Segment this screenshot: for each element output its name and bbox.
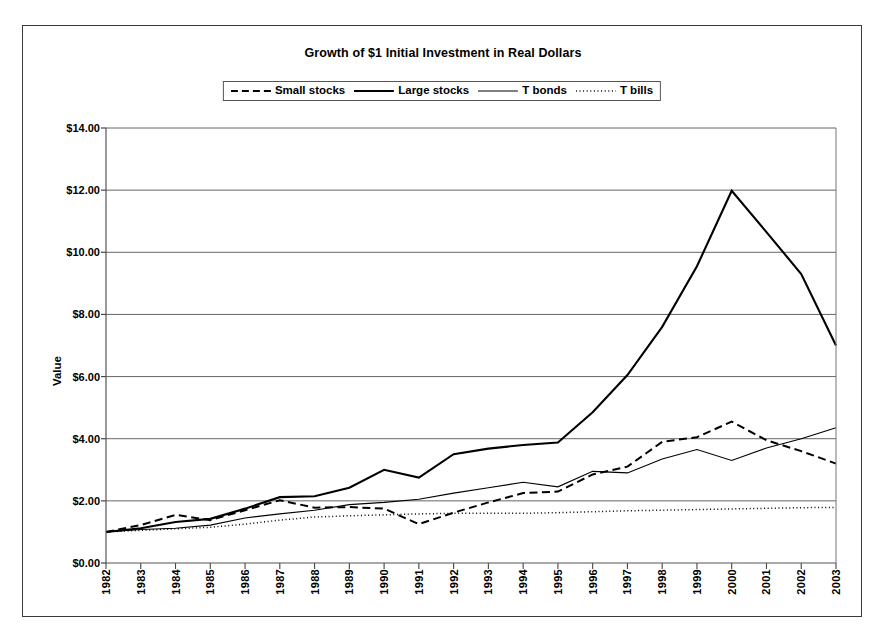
series-lines — [106, 191, 836, 532]
plot-svg — [106, 128, 836, 563]
x-axis-tick-label: 1985 — [204, 569, 216, 595]
x-axis-tick-label: 1983 — [135, 569, 147, 595]
y-axis-ticks — [101, 128, 106, 563]
x-axis-tick-label: 1992 — [448, 569, 460, 595]
legend-label-large-stocks: Large stocks — [398, 85, 469, 97]
y-axis-tick-label: $0.00 — [30, 557, 100, 569]
legend-label-t-bonds: T bonds — [522, 85, 567, 97]
x-axis-tick-label: 2003 — [830, 569, 842, 595]
x-axis-tick-label: 2001 — [760, 569, 772, 595]
x-axis-tick-label: 1986 — [239, 569, 251, 595]
x-axis-tick-label: 1989 — [343, 569, 355, 595]
x-axis-tick-label: 1994 — [517, 569, 529, 595]
y-axis-tick-label: $2.00 — [30, 495, 100, 507]
x-axis-tick-label: 2000 — [726, 569, 738, 595]
y-axis-tick-label: $4.00 — [30, 433, 100, 445]
x-axis-tick-label: 1999 — [691, 569, 703, 595]
chart-figure: Growth of $1 Initial Investment in Real … — [22, 25, 862, 617]
legend-swatch-solid-thick-icon — [354, 86, 394, 95]
plot-area: $14.00$12.00$10.00$8.00$6.00$4.00$2.00$0… — [106, 128, 836, 563]
legend-entry-large-stocks: Large stocks — [354, 85, 469, 97]
series-line-t-bills — [106, 507, 836, 532]
y-axis-tick-label: $14.00 — [30, 122, 100, 134]
x-axis-tick-label: 1996 — [587, 569, 599, 595]
chart-title: Growth of $1 Initial Investment in Real … — [23, 46, 863, 60]
legend-entry-t-bills: T bills — [576, 85, 653, 97]
y-axis-tick-label: $8.00 — [30, 308, 100, 320]
legend-entry-t-bonds: T bonds — [478, 85, 567, 97]
legend-entry-small-stocks: Small stocks — [231, 85, 345, 97]
legend-label-small-stocks: Small stocks — [275, 85, 345, 97]
series-line-large-stocks — [106, 191, 836, 532]
x-axis-tick-label: 1982 — [100, 569, 112, 595]
x-axis-tick-label: 1984 — [170, 569, 182, 595]
y-axis-tick-label: $10.00 — [30, 246, 100, 258]
x-axis-tick-label: 1988 — [309, 569, 321, 595]
x-axis-tick-label: 1990 — [378, 569, 390, 595]
legend-swatch-dotted-icon — [576, 86, 616, 95]
x-axis-tick-label: 1995 — [552, 569, 564, 595]
x-axis-tick-label: 1993 — [482, 569, 494, 595]
y-axis-tick-label: $6.00 — [30, 371, 100, 383]
x-axis-tick-label: 1998 — [656, 569, 668, 595]
x-axis-tick-label: 1991 — [413, 569, 425, 595]
x-axis-tick-label: 1987 — [274, 569, 286, 595]
gridlines — [106, 128, 836, 501]
chart-legend: Small stocks Large stocks T bonds T bill… — [223, 81, 661, 101]
legend-label-t-bills: T bills — [620, 85, 653, 97]
legend-swatch-dashed-icon — [231, 86, 271, 95]
series-line-small-stocks — [106, 422, 836, 532]
x-axis-tick-label: 2002 — [795, 569, 807, 595]
legend-swatch-solid-thin-icon — [478, 86, 518, 95]
y-axis-tick-label: $12.00 — [30, 184, 100, 196]
x-axis-tick-label: 1997 — [621, 569, 633, 595]
